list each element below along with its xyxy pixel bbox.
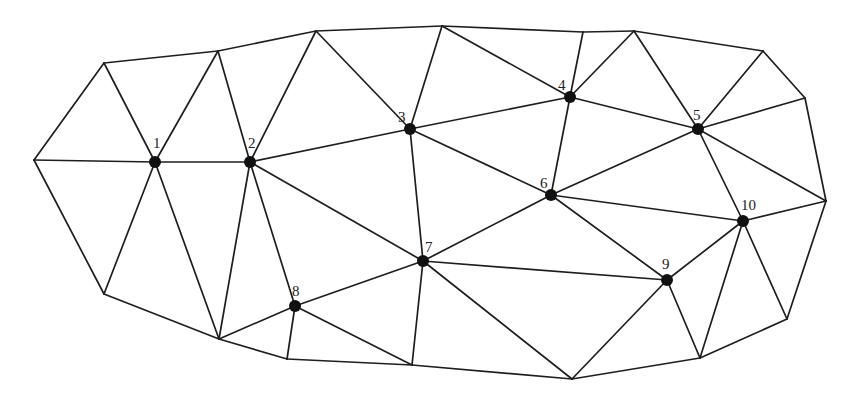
node-7-label: 7 <box>425 239 433 255</box>
mesh-edge <box>287 359 412 365</box>
mesh-edge <box>410 129 551 195</box>
node-3-label: 3 <box>398 109 406 125</box>
mesh-edge <box>423 261 572 379</box>
mesh-edge <box>410 97 570 129</box>
mesh-edge <box>698 129 826 201</box>
node-1-label: 1 <box>153 135 161 151</box>
mesh-edge <box>700 319 787 358</box>
mesh-edge <box>551 97 570 195</box>
node-4-label: 4 <box>558 77 566 93</box>
node-2-label: 2 <box>248 135 256 151</box>
edges-layer <box>34 26 826 379</box>
mesh-edge <box>805 98 826 201</box>
mesh-edge <box>551 129 698 195</box>
mesh-edge <box>583 31 634 32</box>
mesh-edge <box>763 51 805 98</box>
mesh-edge <box>634 31 763 51</box>
mesh-edge <box>316 26 442 31</box>
mesh-edge <box>104 294 219 339</box>
mesh-edge <box>570 31 634 97</box>
mesh-edge <box>219 306 295 339</box>
node-6-label: 6 <box>540 175 548 191</box>
mesh-edge <box>250 129 410 162</box>
mesh-edge <box>295 306 412 365</box>
mesh-edge <box>34 63 104 160</box>
mesh-edge <box>667 221 743 280</box>
mesh-edge <box>698 129 743 221</box>
mesh-edge <box>34 160 104 294</box>
mesh-edge <box>295 261 423 306</box>
mesh-edge <box>412 365 572 379</box>
mesh-edge <box>410 129 423 261</box>
node-9-dot-icon <box>661 274 673 286</box>
mesh-edge <box>155 51 218 162</box>
mesh-edge <box>218 31 316 51</box>
mesh-edge <box>287 306 295 359</box>
mesh-edge <box>423 195 551 261</box>
mesh-edge <box>218 51 250 162</box>
mesh-edge <box>34 160 155 162</box>
mesh-edge <box>572 280 667 379</box>
mesh-edge <box>410 26 442 129</box>
node-4-dot-icon <box>564 91 576 103</box>
mesh-edge <box>316 31 410 129</box>
node-10-label: 10 <box>741 197 756 213</box>
mesh-edge <box>667 280 700 358</box>
mesh-edge <box>743 221 787 319</box>
node-2-dot-icon <box>244 156 256 168</box>
triangulation-canvas: 12345678910 <box>0 0 852 396</box>
node-8-label: 8 <box>292 283 300 299</box>
node-5-label: 5 <box>693 107 701 123</box>
mesh-edge <box>104 162 155 294</box>
node-5-dot-icon <box>692 123 704 135</box>
mesh-edge <box>700 221 743 358</box>
mesh-edge <box>423 261 667 280</box>
node-1-dot-icon <box>149 156 161 168</box>
mesh-edge <box>787 201 826 319</box>
mesh-edge <box>570 32 583 97</box>
node-10-dot-icon <box>737 215 749 227</box>
mesh-edge <box>219 339 287 359</box>
mesh-edge <box>412 261 423 365</box>
node-3-dot-icon <box>404 123 416 135</box>
mesh-edge <box>104 51 218 63</box>
mesh-edge <box>634 31 698 129</box>
mesh-edge <box>155 162 219 339</box>
labels-layer: 12345678910 <box>153 77 756 299</box>
mesh-edge <box>572 358 700 379</box>
node-9-label: 9 <box>662 256 670 272</box>
mesh-edge <box>570 97 698 129</box>
mesh-edge <box>442 26 570 97</box>
node-8-dot-icon <box>289 300 301 312</box>
mesh-edge <box>250 31 316 162</box>
mesh-diagram: 12345678910 <box>0 0 852 396</box>
node-7-dot-icon <box>417 255 429 267</box>
mesh-edge <box>698 51 763 129</box>
mesh-edge <box>219 162 250 339</box>
mesh-edge <box>698 98 805 129</box>
mesh-edge <box>442 26 583 32</box>
mesh-edge <box>104 63 155 162</box>
